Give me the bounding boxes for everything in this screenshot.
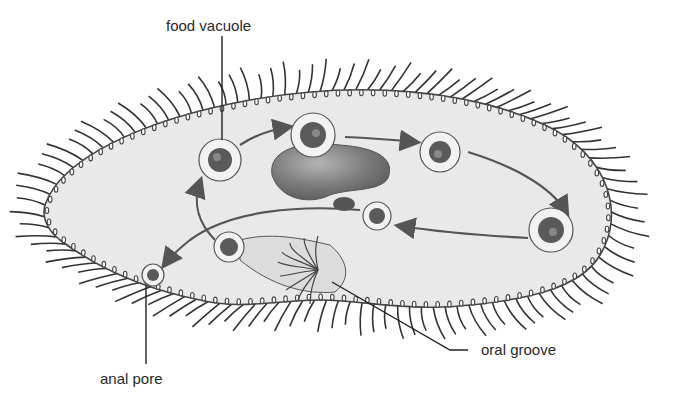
food-vacuole — [214, 232, 244, 262]
label-oral-groove: oral groove — [481, 342, 556, 357]
food-vacuole — [529, 208, 573, 252]
label-anal-pore: anal pore — [100, 371, 163, 386]
label-food-vacuole: food vacuole — [166, 18, 251, 33]
food-vacuole — [363, 202, 391, 230]
food-vacuole — [291, 113, 335, 157]
paramecium-diagram — [0, 0, 682, 414]
food-vacuole — [199, 139, 241, 181]
food-vacuole — [142, 264, 164, 286]
food-vacuole — [420, 132, 460, 172]
